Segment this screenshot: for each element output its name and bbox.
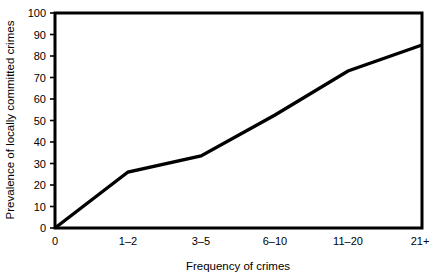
x-axis-tick-labels: 0 1–2 3–5 6–10 11–20 21+ bbox=[52, 235, 429, 247]
x-tick-label: 3–5 bbox=[192, 235, 210, 247]
y-tick-label: 100 bbox=[28, 7, 46, 19]
y-tick-label: 30 bbox=[34, 158, 46, 170]
y-tick-label: 20 bbox=[34, 179, 46, 191]
y-tick-label: 40 bbox=[34, 136, 46, 148]
y-axis-title: Prevalence of locally committed crimes bbox=[4, 20, 16, 219]
x-tick-label: 0 bbox=[52, 235, 58, 247]
y-tick-label: 70 bbox=[34, 72, 46, 84]
x-axis-title: Frequency of crimes bbox=[186, 260, 290, 272]
y-tick-label: 50 bbox=[34, 115, 46, 127]
x-tick-label: 6–10 bbox=[263, 235, 287, 247]
y-tick-label: 10 bbox=[34, 201, 46, 213]
y-tick-label: 80 bbox=[34, 50, 46, 62]
chart-figure: 100 90 80 70 60 50 40 30 20 10 0 0 1–2 3… bbox=[0, 0, 437, 280]
line-chart: 100 90 80 70 60 50 40 30 20 10 0 0 1–2 3… bbox=[0, 0, 437, 280]
x-tick-label: 11–20 bbox=[333, 235, 363, 247]
y-axis-tick-labels: 100 90 80 70 60 50 40 30 20 10 0 bbox=[28, 7, 46, 234]
x-tick-label: 1–2 bbox=[119, 235, 137, 247]
y-tick-label: 60 bbox=[34, 93, 46, 105]
y-tick-label: 0 bbox=[40, 222, 46, 234]
y-tick-label: 90 bbox=[34, 29, 46, 41]
plot-background bbox=[55, 13, 422, 228]
x-tick-label: 21+ bbox=[411, 235, 430, 247]
